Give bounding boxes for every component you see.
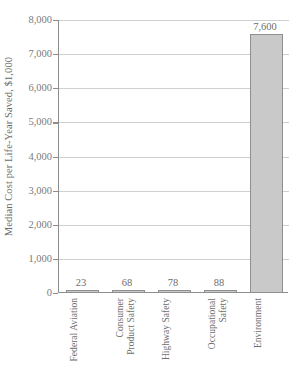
- y-tick-label: 1,000: [8, 254, 52, 264]
- x-category-line: Occupational: [206, 298, 217, 378]
- x-category-label: Federal Aviation: [68, 298, 94, 378]
- x-category-label: OccupationalSafety: [206, 298, 232, 378]
- y-tick-label: 5,000: [8, 117, 52, 127]
- bar: [112, 290, 145, 293]
- bar: [158, 290, 191, 293]
- x-category-label: Highway Safety: [160, 298, 186, 378]
- bar: [250, 34, 283, 293]
- y-tick-label: 2,000: [8, 220, 52, 230]
- x-category-line: Environment: [252, 298, 263, 378]
- bar-chart-figure: Median Cost per Life-Year Saved, $1,000 …: [0, 0, 304, 381]
- x-category-line: Product Safety: [125, 298, 136, 378]
- plot-area: [58, 20, 288, 293]
- y-tick-mark: [53, 293, 58, 294]
- x-category-line: Federal Aviation: [68, 298, 79, 378]
- bar: [66, 290, 99, 293]
- x-category-label: Environment: [252, 298, 278, 378]
- x-category-line: Consumer: [114, 298, 125, 378]
- y-tick-label: 3,000: [8, 186, 52, 196]
- y-tick-label: 8,000: [8, 15, 52, 25]
- x-category-line: Safety: [217, 298, 228, 378]
- y-tick-label: 6,000: [8, 83, 52, 93]
- x-category-line: Highway Safety: [160, 298, 171, 378]
- y-tick-label: 4,000: [8, 152, 52, 162]
- y-tick-label: 0: [8, 288, 52, 298]
- bar-value-label: 88: [189, 277, 249, 288]
- y-tick-label: 7,000: [8, 49, 52, 59]
- bar-value-label: 7,600: [235, 21, 295, 32]
- bar: [204, 290, 237, 293]
- y-axis-title: Median Cost per Life-Year Saved, $1,000: [0, 0, 18, 293]
- x-category-label: ConsumerProduct Safety: [114, 298, 140, 378]
